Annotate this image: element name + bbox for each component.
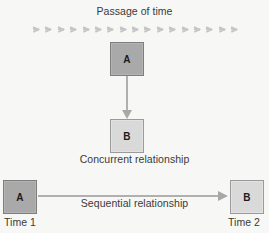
time-1-label: Time 1 — [4, 216, 36, 228]
chevron-right-arrow-icon — [231, 25, 239, 34]
time-2-label: Time 2 — [228, 216, 260, 228]
chevron-right-arrow-icon — [194, 25, 202, 34]
chevron-right-arrow-icon — [182, 25, 190, 34]
chevron-right-arrow-icon — [219, 25, 227, 34]
chevron-right-arrow-icon — [169, 25, 177, 34]
sequential-relationship-caption: Sequential relationship — [0, 197, 269, 209]
chevron-right-arrow-icon — [33, 25, 41, 34]
chevron-right-arrow-icon — [83, 25, 91, 34]
chevron-right-arrow-icon — [58, 25, 66, 34]
diagram-title: Passage of time — [0, 5, 269, 17]
passage-of-time-arrow-track — [33, 23, 239, 35]
chevron-right-arrow-icon — [144, 25, 152, 34]
concurrent-relationship-caption: Concurrent relationship — [0, 153, 269, 165]
chevron-right-arrow-icon — [70, 25, 78, 34]
chevron-right-arrow-icon — [132, 25, 140, 34]
concurrent-source-box-a: A — [110, 42, 144, 76]
timeline-relationship-diagram: Passage of time A B Concurrent relations… — [0, 0, 269, 233]
chevron-right-arrow-icon — [120, 25, 128, 34]
chevron-right-arrow-icon — [206, 25, 214, 34]
concurrent-target-box-b: B — [110, 119, 144, 153]
chevron-right-arrow-icon — [45, 25, 53, 34]
chevron-right-arrow-icon — [95, 25, 103, 34]
down-arrow-icon — [122, 110, 132, 119]
concurrent-connector-line — [126, 76, 128, 112]
chevron-right-arrow-icon — [107, 25, 115, 34]
chevron-right-arrow-icon — [157, 25, 165, 34]
